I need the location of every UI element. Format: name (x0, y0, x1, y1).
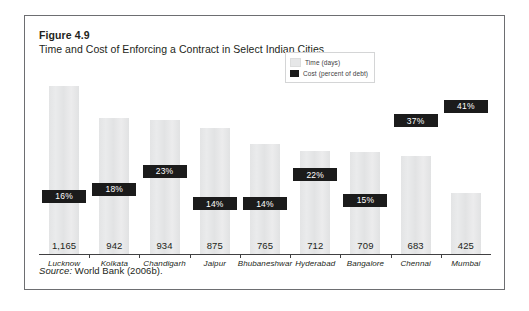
x-axis-tick (89, 254, 90, 258)
legend-label-time: Time (days) (305, 59, 340, 66)
legend-item-time: Time (days) (290, 57, 368, 67)
x-axis-tick (391, 254, 392, 258)
cost-band: 37% (394, 114, 438, 127)
bar-group: 1,16516% (39, 74, 89, 254)
bar-group: 76514% (240, 74, 290, 254)
time-value-label: 425 (458, 240, 474, 251)
legend-label-cost: Cost (percent of debt) (303, 70, 368, 77)
x-axis-tick (340, 254, 341, 258)
cost-band: 41% (444, 100, 488, 113)
page-title: Time and Cost of Enforcing a Contract in… (39, 42, 324, 56)
bar-group: 71222% (290, 74, 340, 254)
category-label: Jaipur (204, 259, 226, 268)
source-text: World Bank (2006b). (72, 265, 163, 276)
x-axis-line (39, 254, 491, 255)
category-label: Bhubaneshwar (238, 259, 293, 268)
cost-band: 18% (92, 183, 136, 196)
bar-group: 68337% (391, 74, 441, 254)
x-axis-tick (139, 254, 140, 258)
x-axis-tick (441, 254, 442, 258)
time-value-label: 712 (307, 240, 323, 251)
category-label: Chennai (400, 259, 431, 268)
time-bar (200, 128, 230, 254)
bar-group: 87514% (190, 74, 240, 254)
legend-swatch-cost-icon (290, 70, 299, 77)
source-note: Source: World Bank (2006b). (39, 265, 163, 276)
time-value-label: 934 (156, 240, 172, 251)
x-axis-tick (290, 254, 291, 258)
bar-group: 93423% (139, 74, 189, 254)
bar-group: 94218% (89, 74, 139, 254)
bar-group: 70915% (340, 74, 390, 254)
time-bar (300, 151, 330, 254)
chart-legend: Time (days) Cost (percent of debt) (285, 52, 375, 83)
category-label: Bangalore (347, 259, 384, 268)
figure-number: Figure 4.9 (39, 28, 324, 42)
cost-band: 16% (42, 190, 86, 203)
x-axis-tick (240, 254, 241, 258)
bar-group: 42541% (441, 74, 491, 254)
cost-band: 15% (343, 194, 387, 207)
source-label: Source: (39, 265, 72, 276)
time-value-label: 683 (408, 240, 424, 251)
cost-band: 23% (143, 165, 187, 178)
category-label: Mumbai (451, 259, 480, 268)
cost-band: 14% (243, 197, 287, 210)
figure-caption: Figure 4.9 Time and Cost of Enforcing a … (39, 28, 324, 57)
time-value-label: 942 (106, 240, 122, 251)
time-value-label: 765 (257, 240, 273, 251)
chart-plot-area: 1,16516%94218%93423%87514%76514%71222%70… (39, 74, 491, 254)
bars-layer: 1,16516%94218%93423%87514%76514%71222%70… (39, 74, 491, 254)
time-value-label: 709 (357, 240, 373, 251)
time-value-label: 1,165 (52, 240, 76, 251)
time-bar (150, 120, 180, 254)
x-axis-tick (190, 254, 191, 258)
cost-band: 14% (193, 197, 237, 210)
category-label: Hyderabad (295, 259, 335, 268)
legend-swatch-time-icon (290, 58, 301, 67)
figure-frame: Figure 4.9 Time and Cost of Enforcing a … (24, 15, 505, 290)
time-bar (49, 86, 79, 254)
cost-band: 22% (293, 168, 337, 181)
time-value-label: 875 (207, 240, 223, 251)
legend-item-cost: Cost (percent of debt) (290, 68, 368, 78)
